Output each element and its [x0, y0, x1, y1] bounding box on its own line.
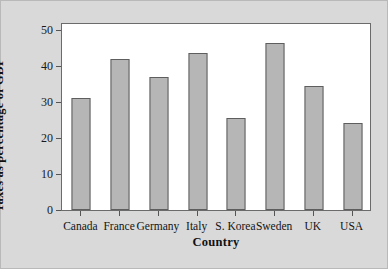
y-tick-label: 20	[41, 131, 53, 146]
bar-slot	[333, 24, 372, 210]
y-axis-title: Taxes as percentage of GDP	[0, 58, 7, 212]
x-tick-mark	[313, 211, 314, 216]
bar[interactable]	[111, 59, 130, 210]
bar-slot	[295, 24, 334, 210]
x-tick-label: UK	[305, 219, 322, 233]
bar[interactable]	[149, 77, 168, 210]
bar-slot	[217, 24, 256, 210]
x-tick-label: France	[103, 219, 134, 233]
y-tick-label: 30	[41, 95, 53, 110]
y-tick-label: 40	[41, 59, 53, 74]
y-tick-label: 0	[47, 203, 53, 218]
x-tick-label: Sweden	[256, 219, 292, 233]
bar[interactable]	[266, 43, 285, 210]
bar-slot	[62, 24, 101, 210]
x-tick-label: USA	[340, 219, 363, 233]
x-tick-mark	[235, 211, 236, 216]
x-tick-mark	[119, 211, 120, 216]
bars-layer	[62, 24, 370, 210]
x-tick-label: Italy	[186, 219, 207, 233]
x-tick-mark	[197, 211, 198, 216]
bar[interactable]	[343, 123, 362, 210]
bar-slot	[101, 24, 140, 210]
bar[interactable]	[72, 98, 91, 210]
x-tick-mark	[352, 211, 353, 216]
x-tick-label: Canada	[63, 219, 97, 233]
y-tick-label: 10	[41, 167, 53, 182]
chart-figure: Taxes as percentage of GDP 01020304050 C…	[0, 0, 388, 269]
x-axis-title: Country	[61, 235, 371, 250]
bar[interactable]	[304, 86, 323, 210]
bar-slot	[178, 24, 217, 210]
y-axis: Taxes as percentage of GDP 01020304050	[1, 1, 61, 268]
x-tick-mark	[158, 211, 159, 216]
bar[interactable]	[188, 53, 207, 210]
bar-slot	[256, 24, 295, 210]
y-tick-label: 50	[41, 23, 53, 38]
plot-area	[61, 23, 371, 211]
bar[interactable]	[227, 118, 246, 210]
x-tick-mark	[274, 211, 275, 216]
x-tick-label: Germany	[136, 219, 179, 233]
x-tick-mark	[80, 211, 81, 216]
x-tick-label: S. Korea	[215, 219, 255, 233]
bar-slot	[140, 24, 179, 210]
